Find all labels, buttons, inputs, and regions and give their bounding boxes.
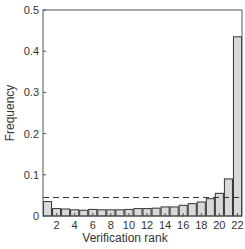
- histogram-bar: [62, 209, 70, 216]
- histogram-bar: [233, 37, 241, 216]
- y-tick-label: 0.5: [24, 4, 39, 16]
- axes-frame: [43, 10, 242, 216]
- x-axis-label: Verification rank: [82, 231, 168, 245]
- rank-histogram-chart: 00.10.20.30.40.5246810121416182022 Verif…: [0, 0, 245, 249]
- x-tick-label: 8: [108, 219, 114, 231]
- histogram-bar: [134, 209, 142, 216]
- x-tick-label: 4: [72, 219, 78, 231]
- histogram-bar: [116, 210, 124, 216]
- histogram-bar: [215, 193, 223, 216]
- y-axis-label: Frequency: [3, 85, 17, 142]
- y-tick-label: 0.2: [24, 128, 39, 140]
- y-tick-label: 0.3: [24, 86, 39, 98]
- y-tick-label: 0.4: [24, 45, 39, 57]
- x-tick-label: 22: [231, 219, 243, 231]
- histogram-bar: [80, 210, 88, 216]
- x-tick-label: 10: [123, 219, 135, 231]
- x-tick-label: 20: [213, 219, 225, 231]
- histogram-bar: [44, 202, 52, 216]
- x-tick-label: 12: [141, 219, 153, 231]
- histogram-bar: [98, 210, 106, 216]
- x-tick-label: 16: [177, 219, 189, 231]
- x-tick-label: 18: [195, 219, 207, 231]
- histogram-bar: [170, 207, 178, 216]
- y-tick-label: 0.1: [24, 169, 39, 181]
- histogram-bar: [188, 204, 196, 216]
- histogram-bar: [206, 199, 214, 216]
- x-tick-label: 6: [90, 219, 96, 231]
- x-tick-label: 2: [54, 219, 60, 231]
- y-tick-label: 0: [33, 210, 39, 222]
- x-tick-label: 14: [159, 219, 171, 231]
- histogram-bar: [152, 208, 160, 216]
- plot-area: 00.10.20.30.40.5246810121416182022: [24, 4, 244, 231]
